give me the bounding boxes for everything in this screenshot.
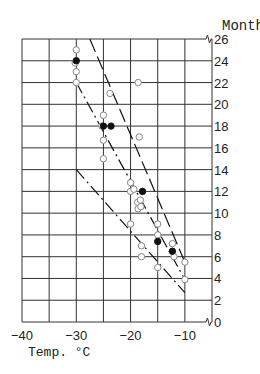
y-tick-label: 2 <box>214 293 221 308</box>
trend-line-upper-bound <box>90 39 185 262</box>
open-circle-marker <box>73 79 79 85</box>
y-axis-label: Months <box>222 18 260 34</box>
y-tick-label: 0 <box>214 315 221 330</box>
open-circle-marker <box>100 156 106 162</box>
y-tick-label: 14 <box>214 163 228 178</box>
x-tick-label: −40 <box>11 328 33 343</box>
x-axis-label: Temp. °C <box>28 345 91 360</box>
open-circle-marker <box>137 197 143 203</box>
open-circle-marker <box>138 203 144 209</box>
open-circle-marker <box>182 259 188 265</box>
y-tick-label: 20 <box>214 97 228 112</box>
open-circle-marker <box>135 79 141 85</box>
x-tick-label: −30 <box>65 328 87 343</box>
filled-circle-marker <box>169 248 175 254</box>
filled-circle-marker <box>108 123 114 129</box>
open-circle-marker <box>136 134 142 140</box>
open-circle-marker <box>73 68 79 74</box>
y-tick-label: 10 <box>214 206 228 221</box>
y-tick-label: 6 <box>214 250 221 265</box>
open-circle-marker <box>155 232 161 238</box>
filled-circle-marker <box>73 58 79 64</box>
axis-break-icon-top <box>203 35 212 43</box>
y-tick-label: 24 <box>214 54 228 69</box>
open-circle-marker <box>73 47 79 53</box>
open-circle-marker <box>127 221 133 227</box>
y-tick-label: 18 <box>214 119 228 134</box>
open-circle-marker <box>127 179 133 185</box>
open-circle-marker <box>138 253 144 259</box>
open-circle-marker <box>100 112 106 118</box>
chart: 02468101214161820222426−40−30−20−10 Mont… <box>0 0 260 374</box>
open-circle-marker <box>155 221 161 227</box>
y-tick-label: 8 <box>214 228 221 243</box>
axis-break-icon-bottom <box>203 318 212 326</box>
x-tick-label: −10 <box>174 328 196 343</box>
filled-circle-marker <box>100 123 106 129</box>
open-circle-marker <box>155 264 161 270</box>
x-tick-label: −20 <box>120 328 142 343</box>
y-tick-label: 12 <box>214 184 228 199</box>
open-circle-marker <box>182 276 188 282</box>
open-circle-marker <box>138 243 144 249</box>
y-tick-label: 4 <box>214 271 221 286</box>
y-tick-label: 16 <box>214 141 228 156</box>
y-tick-label: 22 <box>214 76 228 91</box>
tick-labels: 02468101214161820222426−40−30−20−10 <box>11 32 229 343</box>
y-tick-label: 26 <box>214 32 228 47</box>
open-circle-marker <box>131 186 137 192</box>
filled-circle-marker <box>139 188 145 194</box>
open-circle-marker <box>169 240 175 246</box>
open-circle-marker <box>107 90 113 96</box>
filled-circle-marker <box>155 238 161 244</box>
open-circle-marker <box>100 137 106 143</box>
